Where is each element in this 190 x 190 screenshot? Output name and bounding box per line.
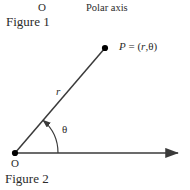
origin-point-dot <box>12 150 18 156</box>
angle-arc <box>43 120 58 153</box>
point-p-equals: = ( <box>126 40 141 52</box>
figure-2-caption: Figure 2 <box>5 172 49 185</box>
radius-segment <box>15 48 105 153</box>
figure-container: Figure 1 O Polar axis P = (r,θ) r θ O Fi… <box>0 0 190 190</box>
angle-theta-label: θ <box>62 124 67 135</box>
radius-label: r <box>56 86 60 97</box>
origin-label: O <box>11 158 19 169</box>
point-p-dot <box>102 45 108 51</box>
point-p-letter: P <box>119 40 126 52</box>
point-p-label: P = (r,θ) <box>119 41 157 52</box>
polar-diagram <box>0 0 190 190</box>
point-p-close-paren: ) <box>153 40 157 52</box>
